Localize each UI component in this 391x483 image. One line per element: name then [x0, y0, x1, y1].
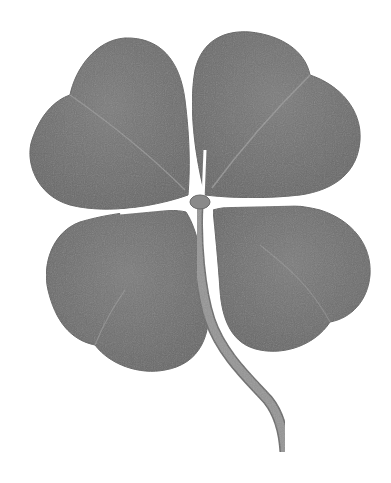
leaf-bottom-left — [46, 210, 208, 371]
leaf-gap-right — [210, 203, 300, 205]
leaf-top-left — [30, 38, 189, 209]
leaf-top-right — [192, 32, 360, 198]
clover-center — [190, 195, 210, 209]
clover-image: four-leaf clover — [0, 0, 391, 483]
leaf-bottom-right — [213, 204, 370, 351]
leaf-gap-top — [203, 150, 205, 200]
clover-illustration — [0, 0, 391, 483]
